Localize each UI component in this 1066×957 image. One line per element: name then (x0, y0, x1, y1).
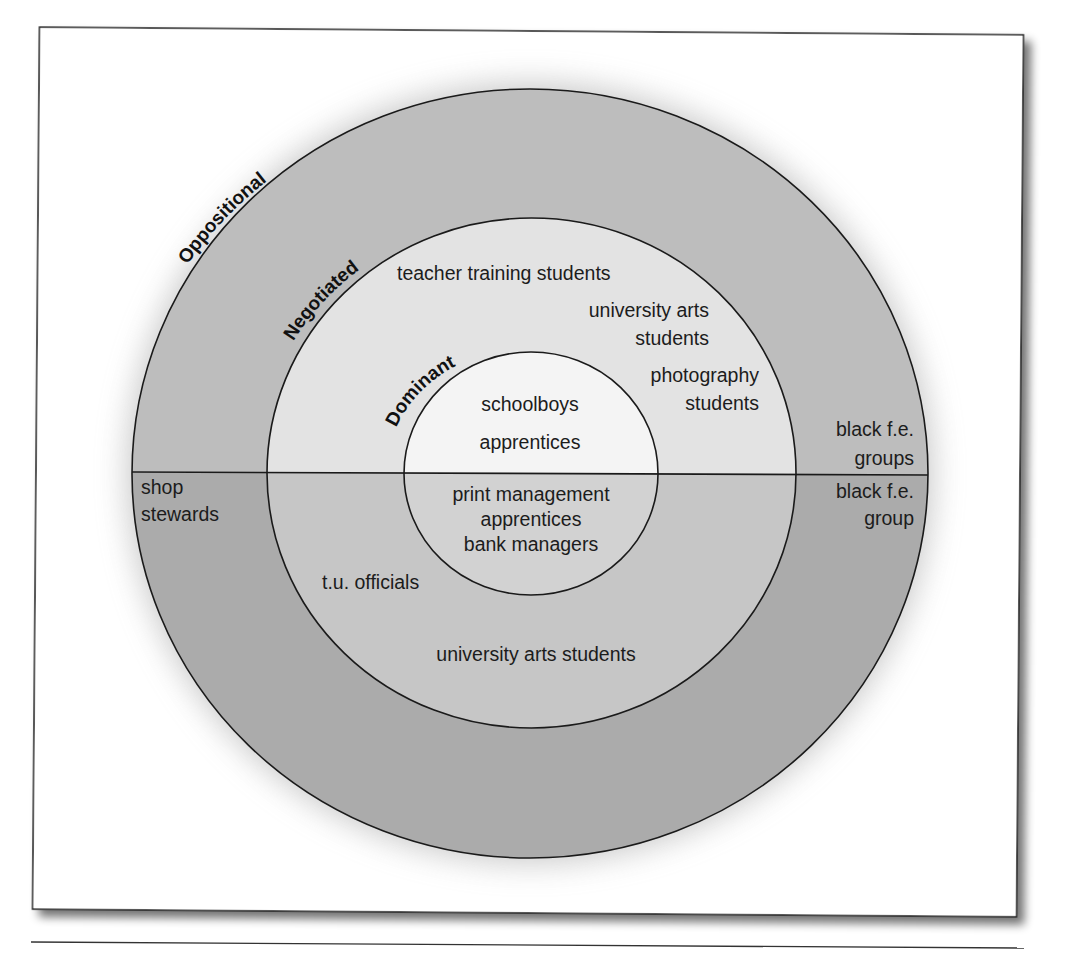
label-university-arts-line2: students (635, 327, 709, 349)
label-photography-line1: photography (651, 364, 760, 386)
label-tu-officials: t.u. officials (322, 571, 419, 593)
label-apprentices-top: apprentices (480, 431, 581, 453)
label-photography-line2: students (685, 392, 759, 414)
label-apprentices-bottom: apprentices (481, 508, 582, 530)
label-black-fe-groups-line2: groups (854, 447, 914, 469)
bottom-rule (31, 942, 1024, 948)
label-schoolboys: schoolboys (481, 393, 579, 415)
label-shop-stewards-line2: stewards (141, 503, 219, 525)
label-print-management: print management (452, 483, 610, 505)
label-university-arts-line1: university arts (589, 299, 710, 321)
label-university-arts-students-bottom: university arts students (436, 643, 636, 665)
label-black-fe-groups-line1: black f.e. (836, 418, 914, 440)
label-shop-stewards-line1: shop (141, 476, 183, 498)
label-black-fe-group-line1: black f.e. (836, 480, 914, 502)
reading-positions-diagram: Oppositional Negotiated Dominant teacher… (0, 0, 1066, 957)
label-teacher-training-students: teacher training students (397, 262, 611, 284)
label-bank-managers: bank managers (464, 533, 599, 555)
label-black-fe-group-line2: group (864, 507, 914, 529)
